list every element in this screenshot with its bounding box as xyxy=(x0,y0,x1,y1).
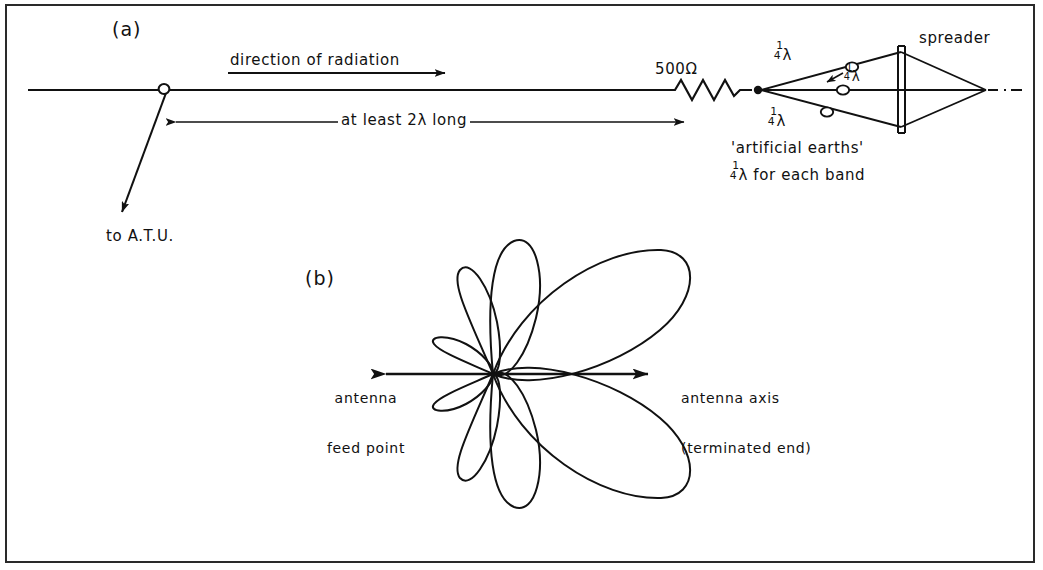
feed-point-line-2: feed point xyxy=(311,440,421,457)
lobe-third-lower xyxy=(457,374,500,481)
axis-line-1: antenna axis xyxy=(681,390,812,407)
artificial-earths-caption: 'artificial earths' xyxy=(731,140,864,158)
atu-feed-line xyxy=(122,93,166,212)
terminating-resistor-icon xyxy=(668,80,752,100)
antenna-length-label: at least 2λ long xyxy=(341,112,467,130)
lobe-second-lower xyxy=(490,373,540,508)
direction-of-radiation-label: direction of radiation xyxy=(230,52,400,70)
middle-wire-fraction: 14 xyxy=(845,63,852,82)
quarter-wave-leader-arrow xyxy=(827,73,843,82)
figure-drawing xyxy=(0,0,1043,570)
earth-junction-dot xyxy=(754,86,762,94)
earths-caption-fraction: 14 xyxy=(731,161,738,183)
artificial-earth-wires xyxy=(761,52,986,127)
antenna-axis-label: antenna axis (terminated end) xyxy=(681,357,812,489)
spreader-label: spreader xyxy=(919,30,990,48)
lobe-main-upper xyxy=(493,250,690,380)
antenna-feed-point-label: antenna feed point xyxy=(311,357,421,489)
upper-wire-lambda: λ xyxy=(782,46,791,64)
middle-wire-quarter-wave-label: 14λ xyxy=(845,64,860,85)
feed-insulator-icon xyxy=(159,84,170,94)
upper-wire-fraction: 14 xyxy=(775,41,782,63)
lobe-third-upper xyxy=(457,267,500,374)
lower-wire-lambda: λ xyxy=(776,112,785,130)
resistor-label: 500Ω xyxy=(655,61,698,79)
lower-wire-fraction: 14 xyxy=(769,107,776,129)
upper-wire-quarter-wave-label: 14λ xyxy=(775,42,792,64)
atu-label: to A.T.U. xyxy=(106,228,174,246)
earths-caption-rest: for each band xyxy=(748,166,865,184)
panel-a-identifier: (a) xyxy=(112,18,141,40)
lobe-second-upper xyxy=(490,240,540,375)
figure-page: (a) direction of radiation at least 2λ l… xyxy=(0,0,1043,570)
lobe-main-lower xyxy=(493,368,690,498)
feed-point-line-1: antenna xyxy=(311,390,421,407)
middle-wire-lambda: λ xyxy=(852,68,861,84)
panel-b-identifier: (b) xyxy=(305,267,335,289)
artificial-earths-band-caption: 14λ for each band xyxy=(731,162,865,184)
earths-caption-lambda: λ xyxy=(738,166,747,184)
lower-wire-quarter-wave-label: 14λ xyxy=(769,108,786,130)
axis-line-2: (terminated end) xyxy=(681,440,812,457)
